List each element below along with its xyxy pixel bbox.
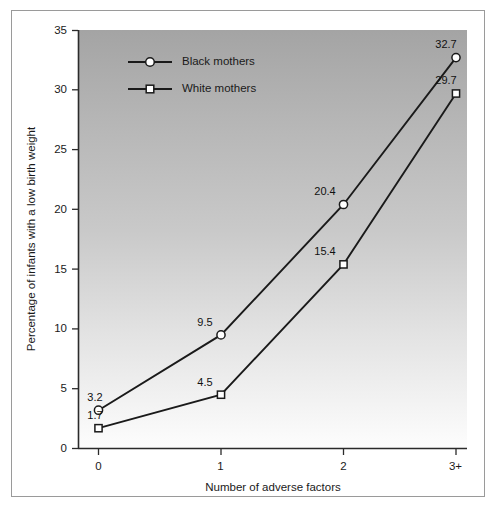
x-tick-label-3plus: 3+ [440,461,471,473]
plot-area-background [78,30,467,448]
y-tick-label-10: 10 [41,323,67,335]
y-tick-label-25: 25 [41,144,67,156]
data-label-white-2: 15.4 [314,246,335,257]
y-tick-label-35: 35 [41,25,67,37]
y-axis-ticks [72,31,78,449]
chart-figure: Black mothers White mothers 0 5 10 15 20… [0,0,498,514]
x-tick-label-1: 1 [205,461,236,473]
x-tick-label-0: 0 [83,461,114,473]
data-label-black-1: 9.5 [197,317,212,328]
data-label-white-1: 4.5 [197,377,212,388]
y-tick-label-15: 15 [41,264,67,276]
legend-marker-circle-icon [146,58,155,67]
data-label-black-2: 20.4 [314,186,335,197]
legend-marker-square-icon [146,85,154,93]
data-label-black-3: 32.7 [435,39,456,50]
legend-label-white-mothers: White mothers [182,83,256,95]
y-tick-label-20: 20 [41,204,67,216]
data-point-black-1 [217,331,225,339]
data-point-black-3 [452,54,460,62]
data-point-white-2 [340,261,347,268]
x-axis-title: Number of adverse factors [205,482,341,494]
y-tick-label-30: 30 [41,84,67,96]
line-chart [0,0,498,514]
data-point-black-2 [339,200,347,208]
x-axis-ticks [99,449,457,456]
data-point-white-1 [217,391,224,398]
data-label-white-0: 1.7 [87,410,102,421]
x-tick-label-2: 2 [328,461,359,473]
legend-label-black-mothers: Black mothers [182,56,255,68]
data-point-white-3 [452,90,459,97]
chart-svg [0,0,498,514]
y-tick-label-0: 0 [41,443,67,455]
data-point-white-0 [95,425,102,432]
data-label-black-0: 3.2 [87,392,102,403]
y-tick-label-5: 5 [41,383,67,395]
data-label-white-3: 29.7 [435,75,456,86]
